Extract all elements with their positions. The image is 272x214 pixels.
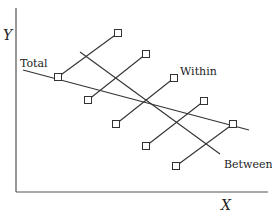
square-marker-icon bbox=[230, 121, 237, 128]
square-marker-icon bbox=[113, 121, 120, 128]
within-line-label: Within bbox=[180, 66, 217, 77]
square-marker-icon bbox=[143, 51, 150, 58]
within-line-1 bbox=[58, 33, 118, 77]
within-line-4 bbox=[146, 101, 204, 146]
between-line-label: Between bbox=[224, 159, 272, 170]
square-marker-icon bbox=[171, 75, 178, 82]
x-axis-label: X bbox=[221, 198, 231, 212]
square-marker-icon bbox=[143, 143, 150, 150]
diagram-canvas: Y X Total Within Between bbox=[0, 0, 272, 214]
y-axis-label: Y bbox=[3, 28, 12, 42]
square-marker-icon bbox=[115, 30, 122, 37]
square-marker-icon bbox=[85, 97, 92, 104]
square-marker-icon bbox=[201, 98, 208, 105]
diagram-svg bbox=[0, 0, 272, 214]
square-marker-icon bbox=[173, 163, 180, 170]
square-marker-icon bbox=[55, 74, 62, 81]
total-line-label: Total bbox=[20, 58, 48, 69]
